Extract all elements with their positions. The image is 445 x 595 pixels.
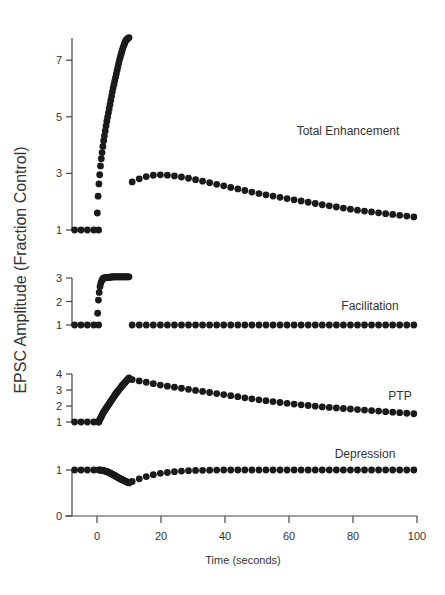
data-point [129,322,136,329]
data-point [347,206,354,213]
data-point [312,467,319,474]
data-point [305,199,312,206]
data-point [291,196,298,203]
data-point [368,209,375,216]
data-point [410,322,417,329]
data-point [389,409,396,416]
data-point [248,467,255,474]
data-point [185,322,192,329]
data-point [71,227,78,234]
x-tick-label: 20 [155,530,167,542]
data-point [97,163,104,170]
data-point [403,213,410,220]
data-point [375,467,382,474]
data-point [227,392,234,399]
data-point [298,198,305,205]
data-point [178,322,185,329]
data-point [389,211,396,218]
y-tick-label: 0 [56,510,62,522]
data-point [361,208,368,215]
data-point [256,396,263,403]
data-point [312,403,319,410]
data-point [164,383,171,390]
data-point [94,210,101,217]
data-point [220,391,227,398]
data-point [319,201,326,208]
data-point [361,407,368,414]
data-point [256,322,263,329]
data-point [99,149,106,156]
data-point [263,397,270,404]
data-point [206,322,213,329]
data-point [206,467,213,474]
data-point [263,191,270,198]
data-point [305,322,312,329]
data-point [71,467,78,474]
data-point [99,143,106,150]
data-point [84,419,91,426]
x-tick-label: 100 [408,530,426,542]
data-point [248,395,255,402]
data-point [220,467,227,474]
data-point [129,478,136,485]
data-point [129,376,136,383]
data-point [270,467,277,474]
data-point [234,393,241,400]
data-point [241,322,248,329]
y-tick-label: 5 [56,111,62,123]
y-tick-label: 7 [56,54,62,66]
data-point [389,467,396,474]
y-tick-label: 3 [56,384,62,396]
data-point [333,467,340,474]
data-point [403,410,410,417]
data-point [78,227,85,234]
data-point [347,406,354,413]
data-point [248,189,255,196]
data-point [178,174,185,181]
data-point [361,322,368,329]
data-point [199,467,206,474]
data-point [94,310,101,317]
data-point [241,394,248,401]
data-point [319,403,326,410]
data-point [298,401,305,408]
data-point [382,210,389,217]
data-point [396,409,403,416]
data-point [347,322,354,329]
data-point [241,467,248,474]
data-point [277,399,284,406]
data-point [291,467,298,474]
data-point [241,187,248,194]
data-point [129,178,136,185]
data-point [84,322,91,329]
chart-figure: 1357Total Enhancement123Facilitation1234… [0,0,445,595]
data-point [143,473,150,480]
data-point [206,389,213,396]
data-point [78,467,85,474]
x-tick-label: 40 [219,530,231,542]
data-point [270,398,277,405]
data-point [164,172,171,179]
data-point [96,171,103,178]
y-tick-label: 3 [56,167,62,179]
data-point [298,467,305,474]
y-tick-label: 1 [56,416,62,428]
data-point [157,322,164,329]
data-point [248,322,255,329]
data-point [143,173,150,180]
data-point [220,182,227,189]
data-point [256,467,263,474]
data-point [277,467,284,474]
x-axis-label: Time (seconds) [205,554,280,566]
data-point [164,469,171,476]
y-tick-label: 1 [56,464,62,476]
data-point [227,467,234,474]
data-point [84,227,91,234]
y-tick-label: 2 [56,400,62,412]
data-point [354,322,361,329]
data-point [150,380,157,387]
data-point [305,402,312,409]
data-point [178,468,185,475]
data-point [312,200,319,207]
data-point [192,387,199,394]
